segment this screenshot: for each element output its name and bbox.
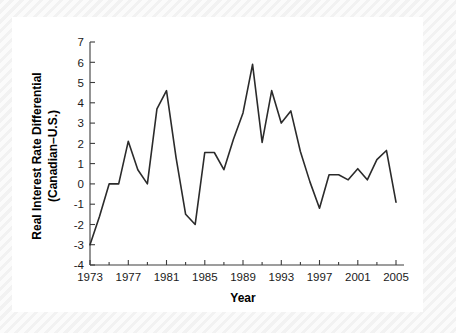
x-tick-label-1985: 1985 bbox=[192, 271, 218, 283]
x-tick-label-1993: 1993 bbox=[269, 271, 295, 283]
y-tick-label-3: 3 bbox=[78, 117, 84, 129]
figure-card: 7 6 5 4 3 2 1 0 -1 -2 -3 -4 Real Interes… bbox=[12, 17, 423, 312]
y-tick-label-6: 6 bbox=[78, 57, 84, 69]
x-tick-label-2001: 2001 bbox=[345, 271, 371, 283]
x-tick-label-1997: 1997 bbox=[307, 271, 333, 283]
y-tick-label-neg1: -1 bbox=[74, 198, 84, 210]
x-tick-label-1989: 1989 bbox=[230, 271, 256, 283]
screenshot-root: 7 6 5 4 3 2 1 0 -1 -2 -3 -4 Real Interes… bbox=[0, 0, 456, 333]
y-axis-title-line1: Real Interest Rate Differential bbox=[30, 72, 44, 239]
y-tick-label-1: 1 bbox=[78, 158, 84, 170]
y-tick-label-neg3: -3 bbox=[74, 239, 84, 251]
y-tick-label-4: 4 bbox=[78, 97, 85, 109]
y-tick-label-7: 7 bbox=[78, 36, 84, 48]
y-tick-label-5: 5 bbox=[78, 77, 84, 89]
y-tick-label-0: 0 bbox=[78, 178, 84, 190]
x-tick-label-2005: 2005 bbox=[383, 271, 409, 283]
y-axis-title-line2: (Canadian–U.S.) bbox=[46, 110, 60, 202]
y-tick-label-neg4: -4 bbox=[74, 259, 85, 271]
line-chart: 7 6 5 4 3 2 1 0 -1 -2 -3 -4 Real Interes… bbox=[12, 17, 423, 312]
x-axis-title: Year bbox=[230, 291, 256, 305]
y-tick-label-neg2: -2 bbox=[74, 219, 84, 231]
x-tick-label-1973: 1973 bbox=[77, 271, 103, 283]
x-tick-label-1981: 1981 bbox=[154, 271, 180, 283]
x-tick-label-1977: 1977 bbox=[116, 271, 142, 283]
y-tick-label-2: 2 bbox=[78, 138, 84, 150]
